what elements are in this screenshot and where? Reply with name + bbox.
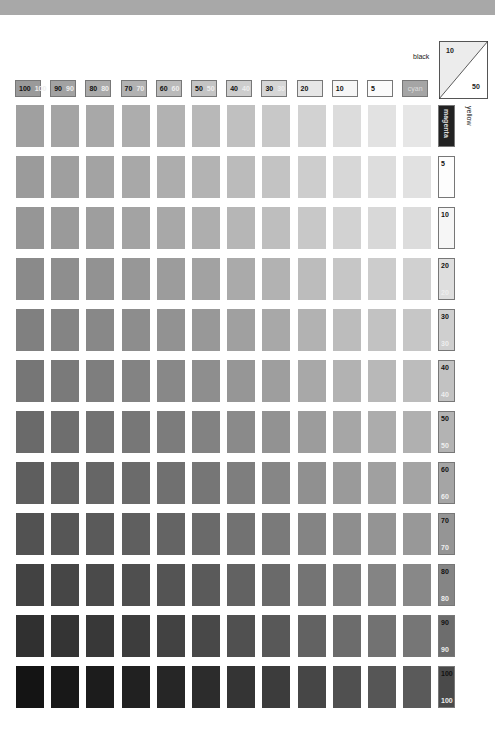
column-header-20: 20 xyxy=(297,80,323,97)
swatch xyxy=(86,258,114,300)
swatch xyxy=(333,462,361,504)
swatch xyxy=(262,156,290,198)
swatch xyxy=(192,309,220,351)
swatch xyxy=(157,105,185,147)
swatch xyxy=(192,564,220,606)
swatch xyxy=(333,411,361,453)
swatch xyxy=(403,258,431,300)
row-header-90: 9090 xyxy=(438,615,455,657)
swatch xyxy=(262,309,290,351)
row-header-60: 6060 xyxy=(438,462,455,504)
swatch xyxy=(51,462,79,504)
row-header-40: 4040 xyxy=(438,360,455,402)
swatch xyxy=(86,666,114,708)
column-header-60: 6060 xyxy=(156,80,182,97)
column-header-5: 5 xyxy=(367,80,393,97)
row-header-5: 5 xyxy=(438,156,455,198)
swatch xyxy=(122,258,150,300)
swatch xyxy=(192,615,220,657)
swatch xyxy=(122,513,150,555)
swatch xyxy=(51,564,79,606)
swatch xyxy=(368,360,396,402)
row-header-50: 5050 xyxy=(438,411,455,453)
swatch xyxy=(51,411,79,453)
column-header-10: 10 xyxy=(332,80,358,97)
swatch xyxy=(403,156,431,198)
swatch xyxy=(262,105,290,147)
swatch xyxy=(51,156,79,198)
row-header-10: 10 xyxy=(438,207,455,249)
swatch xyxy=(227,513,255,555)
swatch xyxy=(157,411,185,453)
swatch xyxy=(298,258,326,300)
swatch xyxy=(368,462,396,504)
swatch xyxy=(86,462,114,504)
swatch xyxy=(16,207,44,249)
swatch xyxy=(157,309,185,351)
swatch xyxy=(192,105,220,147)
swatch xyxy=(192,207,220,249)
swatch xyxy=(403,207,431,249)
swatch xyxy=(368,258,396,300)
swatch xyxy=(157,156,185,198)
swatch xyxy=(122,411,150,453)
swatch xyxy=(157,666,185,708)
swatch xyxy=(333,207,361,249)
swatch xyxy=(122,666,150,708)
swatch xyxy=(403,564,431,606)
swatch xyxy=(333,258,361,300)
swatch xyxy=(157,258,185,300)
swatch xyxy=(298,666,326,708)
swatch xyxy=(403,105,431,147)
swatch xyxy=(16,513,44,555)
row-header-80: 8080 xyxy=(438,564,455,606)
swatch xyxy=(51,615,79,657)
swatch xyxy=(16,666,44,708)
swatch xyxy=(122,360,150,402)
swatch xyxy=(403,615,431,657)
swatch xyxy=(262,258,290,300)
swatch xyxy=(368,207,396,249)
swatch xyxy=(333,666,361,708)
swatch xyxy=(298,462,326,504)
swatch xyxy=(368,513,396,555)
swatch xyxy=(298,513,326,555)
swatch xyxy=(192,360,220,402)
swatch xyxy=(16,309,44,351)
swatch xyxy=(51,309,79,351)
swatch xyxy=(16,258,44,300)
swatch xyxy=(192,462,220,504)
swatch xyxy=(262,513,290,555)
swatch xyxy=(157,207,185,249)
swatch xyxy=(368,564,396,606)
swatch xyxy=(262,462,290,504)
swatch xyxy=(227,258,255,300)
swatch xyxy=(298,411,326,453)
swatch xyxy=(227,207,255,249)
swatch xyxy=(227,462,255,504)
swatch xyxy=(16,105,44,147)
swatch xyxy=(262,666,290,708)
column-header-40: 4040 xyxy=(226,80,252,97)
swatch xyxy=(192,666,220,708)
swatch xyxy=(16,360,44,402)
column-header-70: 7070 xyxy=(121,80,147,97)
row-header-70: 7070 xyxy=(438,513,455,555)
swatch xyxy=(333,513,361,555)
column-header-cyan: cyan xyxy=(402,80,428,97)
swatch xyxy=(262,360,290,402)
swatch xyxy=(122,207,150,249)
swatch xyxy=(86,207,114,249)
swatch xyxy=(298,207,326,249)
swatch xyxy=(157,462,185,504)
swatch xyxy=(16,156,44,198)
swatch xyxy=(86,411,114,453)
swatch xyxy=(16,564,44,606)
swatch xyxy=(86,105,114,147)
swatch xyxy=(16,411,44,453)
swatch xyxy=(333,564,361,606)
column-header-80: 8080 xyxy=(85,80,111,97)
swatch xyxy=(298,564,326,606)
row-header-100: 100100 xyxy=(438,666,455,708)
swatch xyxy=(122,309,150,351)
